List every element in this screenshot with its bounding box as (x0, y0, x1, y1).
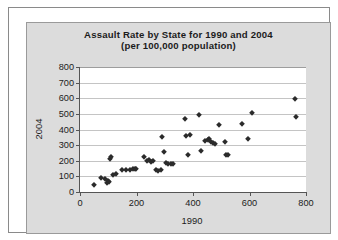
gridline-y-800 (80, 67, 306, 68)
data-point (292, 96, 298, 102)
data-point (160, 134, 166, 140)
data-point (293, 114, 299, 120)
y-tick-label-400: 400 (59, 125, 74, 135)
y-tick-800 (76, 67, 80, 68)
data-point (239, 121, 245, 127)
x-tick-200 (137, 192, 138, 196)
y-tick-label-700: 700 (59, 78, 74, 88)
x-tick-label-400: 400 (185, 198, 200, 208)
x-tick-800 (306, 192, 307, 196)
chart-title: Assault Rate by State for 1990 and 2004 … (27, 29, 330, 52)
gridline-y-200 (80, 161, 306, 162)
x-tick-400 (193, 192, 194, 196)
y-tick-700 (76, 83, 80, 84)
data-point (182, 116, 188, 122)
data-point (161, 149, 167, 155)
x-tick-label-800: 800 (298, 198, 313, 208)
y-tick-300 (76, 145, 80, 146)
y-tick-label-800: 800 (59, 62, 74, 72)
gridline-y-300 (80, 145, 306, 146)
gridline-y-600 (80, 98, 306, 99)
x-axis-title: 1990 (79, 215, 305, 226)
chart-panel: Assault Rate by State for 1990 and 2004 … (26, 22, 331, 234)
y-tick-label-500: 500 (59, 109, 74, 119)
x-tick-label-600: 600 (242, 198, 257, 208)
y-tick-100 (76, 176, 80, 177)
data-point (187, 132, 193, 138)
gridline-y-500 (80, 114, 306, 115)
y-tick-400 (76, 130, 80, 131)
x-tick-label-200: 200 (129, 198, 144, 208)
chart-title-line-2: (per 100,000 population) (27, 40, 330, 51)
data-point (198, 148, 204, 154)
data-point (91, 182, 97, 188)
x-tick-label-0: 0 (77, 198, 82, 208)
chart-title-line-1: Assault Rate by State for 1990 and 2004 (27, 29, 330, 40)
data-point (212, 141, 218, 147)
data-point (249, 110, 255, 116)
y-tick-label-100: 100 (59, 171, 74, 181)
x-tick-0 (80, 192, 81, 196)
y-tick-label-300: 300 (59, 140, 74, 150)
plot-area: 01002003004005006007008000200400600800 (79, 67, 306, 193)
gridline-y-400 (80, 130, 306, 131)
figure-outer-frame: Assault Rate by State for 1990 and 2004 … (8, 7, 330, 233)
data-point (245, 136, 251, 142)
y-tick-600 (76, 98, 80, 99)
data-point (216, 122, 222, 128)
y-tick-label-0: 0 (69, 187, 74, 197)
x-tick-600 (250, 192, 251, 196)
y-tick-label-200: 200 (59, 156, 74, 166)
gridline-y-700 (80, 83, 306, 84)
y-tick-200 (76, 161, 80, 162)
y-tick-500 (76, 114, 80, 115)
data-point (196, 112, 202, 118)
y-tick-label-600: 600 (59, 93, 74, 103)
figure-root: Assault Rate by State for 1990 and 2004 … (0, 0, 338, 240)
data-point (185, 152, 191, 158)
y-axis-title: 2004 (33, 119, 44, 140)
